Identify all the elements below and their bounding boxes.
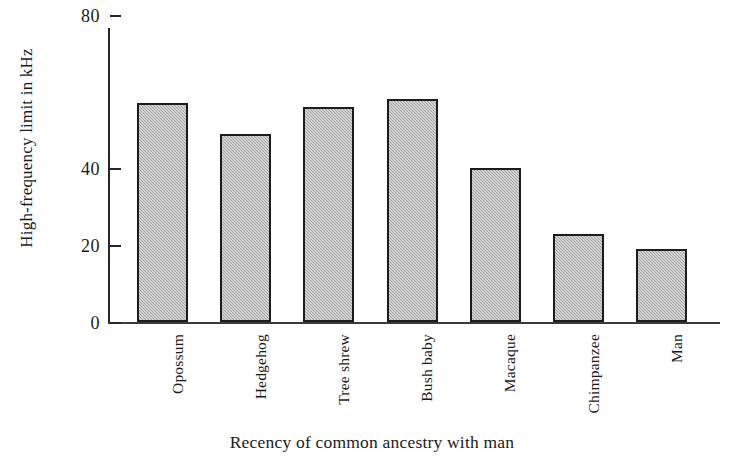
- y-tick-20: 20: [108, 245, 121, 247]
- bar-chart-figure: High-frequency limit in kHz 0204080 Opos…: [0, 0, 744, 465]
- category-label-chimpanzee: Chimpanzee: [586, 334, 602, 413]
- bar-chimpanzee: [553, 234, 604, 322]
- y-axis-title: High-frequency limit in kHz: [14, 0, 40, 296]
- y-tick-label: 80: [81, 7, 100, 25]
- category-label-macaque: Macaque: [502, 334, 518, 392]
- category-label-bush-baby: Bush baby: [419, 334, 435, 402]
- y-tick-0: 0: [108, 322, 121, 324]
- x-axis-title-text: Recency of common ancestry with man: [230, 432, 514, 452]
- plot-area: 0204080: [108, 28, 720, 324]
- y-tick-label: 20: [81, 237, 100, 255]
- y-tick-80: 80: [108, 15, 121, 17]
- y-tick-mark: [110, 245, 121, 247]
- bar-bush-baby: [387, 99, 438, 322]
- y-tick-40: 40: [108, 168, 121, 170]
- bar-man: [636, 249, 687, 322]
- bar-macaque: [470, 168, 521, 322]
- category-label-tree-shrew: Tree shrew: [336, 334, 352, 405]
- category-label-man: Man: [669, 334, 685, 363]
- bar-tree-shrew: [303, 107, 354, 322]
- bar-opossum: [137, 103, 188, 322]
- category-label-hedgehog: Hedgehog: [253, 334, 269, 399]
- y-tick-label: 0: [91, 314, 101, 332]
- y-tick-label: 40: [81, 160, 100, 178]
- x-axis-line: [108, 322, 720, 324]
- category-label-opossum: Opossum: [170, 334, 186, 394]
- y-tick-mark: [110, 168, 121, 170]
- bar-hedgehog: [220, 134, 271, 322]
- y-tick-mark: [110, 15, 121, 17]
- y-axis-line: [108, 28, 110, 324]
- x-axis-title: Recency of common ancestry with man: [0, 432, 744, 453]
- y-axis-title-text: High-frequency limit in kHz: [17, 48, 37, 247]
- y-tick-mark: [110, 322, 121, 324]
